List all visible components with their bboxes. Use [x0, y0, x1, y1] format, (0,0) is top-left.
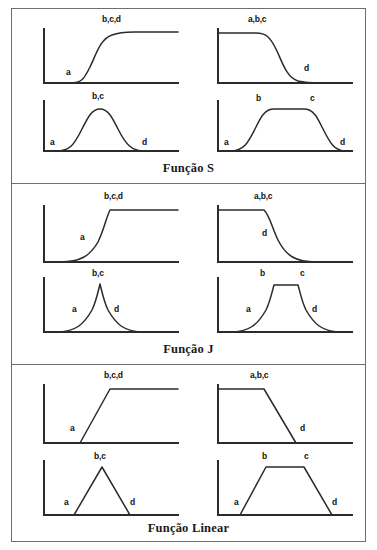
point-label-b: b [256, 93, 261, 103]
chart-s-decreasing: a,b,c d [200, 23, 360, 91]
curve [44, 109, 178, 151]
curve [218, 210, 352, 262]
axes [44, 385, 178, 443]
chart-s-increasing-svg [26, 23, 186, 91]
chart-linear-triangle: a b,c d [26, 457, 186, 523]
point-label-d: d [312, 304, 317, 314]
chart-j-increasing-svg [26, 200, 186, 270]
chart-j-peak-svg [26, 274, 186, 340]
chart-s-smooth-trapezoid: a b c d [200, 97, 360, 159]
point-label-a: a [64, 497, 69, 507]
chart-j-decreasing: a,b,c d [200, 200, 360, 270]
point-label-abc: a,b,c [248, 14, 266, 24]
point-label-b: b [260, 268, 265, 278]
point-label-d: d [130, 497, 135, 507]
point-label-d: d [114, 304, 119, 314]
chart-s-increasing: a b,c,d [26, 23, 186, 91]
chart-j-decreasing-svg [200, 200, 360, 270]
curve [44, 467, 178, 515]
chart-linear-triangle-svg [26, 457, 186, 523]
chart-j-trapezoid-svg [200, 274, 360, 340]
point-label-d: d [340, 137, 345, 147]
point-label-bcd: b,c,d [102, 14, 121, 24]
curve [218, 467, 352, 515]
point-label-d: d [304, 63, 309, 73]
axes [44, 278, 178, 332]
caption-funcao-s: Função S [12, 161, 365, 176]
point-label-bc: b,c [92, 91, 104, 101]
chart-s-decreasing-svg [200, 23, 360, 91]
curve [44, 284, 178, 332]
chart-linear-decreasing: a,b,c d [200, 379, 360, 451]
panel-funcao-s: a b,c,d a,b,c d a b,c d [12, 9, 365, 183]
chart-linear-trapezoid-svg [200, 457, 360, 523]
point-label-d: d [142, 137, 147, 147]
axes [218, 29, 352, 83]
chart-linear-increasing: a b,c,d [26, 379, 186, 451]
point-label-a: a [80, 232, 85, 242]
chart-linear-increasing-svg [26, 379, 186, 451]
point-label-bc: b,c [94, 451, 106, 461]
chart-s-bell: a b,c d [26, 97, 186, 159]
figure-frame: a b,c,d a,b,c d a b,c d [11, 8, 366, 542]
curve [44, 210, 178, 262]
point-label-bcd: b,c,d [104, 191, 123, 201]
point-label-a: a [224, 137, 229, 147]
point-label-a: a [246, 304, 251, 314]
curve [218, 285, 352, 332]
point-label-a: a [70, 423, 75, 433]
point-label-abc: a,b,c [254, 191, 272, 201]
point-label-a: a [72, 304, 77, 314]
chart-linear-decreasing-svg [200, 379, 360, 451]
panel-funcao-linear: a b,c,d a,b,c d a b,c d [12, 365, 365, 543]
figure-fuzzy-membership-functions: a b,c,d a,b,c d a b,c d [0, 0, 377, 550]
chart-linear-trapezoid: a b c d [200, 457, 360, 523]
axes [44, 206, 178, 262]
point-label-a: a [50, 137, 55, 147]
point-label-a: a [234, 497, 239, 507]
point-label-c: c [300, 268, 305, 278]
caption-funcao-j: Função J [12, 342, 365, 357]
point-label-c: c [304, 451, 309, 461]
chart-j-peak: a b,c d [26, 274, 186, 340]
axes [218, 385, 352, 443]
axes [218, 206, 352, 262]
curve [218, 33, 352, 83]
chart-j-increasing: a b,c,d [26, 200, 186, 270]
chart-j-trapezoid: a b c d [200, 274, 360, 340]
caption-funcao-linear: Função Linear [12, 521, 365, 536]
point-label-bcd: b,c,d [104, 370, 123, 380]
axes [44, 29, 178, 83]
point-label-c: c [310, 93, 315, 103]
curve [44, 32, 178, 83]
point-label-abc: a,b,c [250, 370, 268, 380]
curve [218, 109, 352, 151]
point-label-d: d [262, 228, 267, 238]
point-label-bc: b,c [92, 268, 104, 278]
point-label-a: a [66, 67, 71, 77]
panel-funcao-j: a b,c,d a,b,c d a b,c d [12, 184, 365, 364]
axes [44, 101, 178, 151]
curve [218, 389, 352, 443]
axes [218, 278, 352, 332]
chart-s-bell-svg [26, 97, 186, 159]
point-label-d: d [300, 423, 305, 433]
chart-s-smooth-trapezoid-svg [200, 97, 360, 159]
point-label-b: b [262, 451, 267, 461]
point-label-d: d [332, 497, 337, 507]
curve [44, 389, 178, 443]
